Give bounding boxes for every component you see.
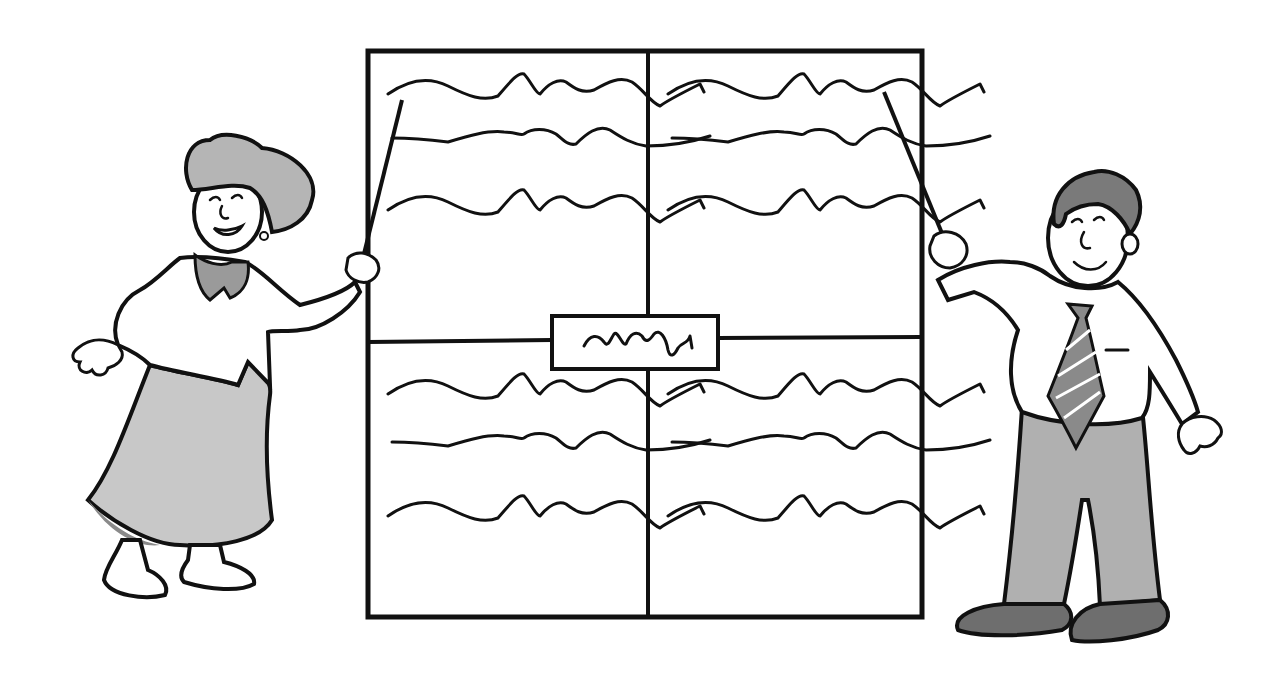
presenter-man (884, 92, 1221, 642)
man-shoe-right (1071, 600, 1168, 642)
woman-hand-right (346, 253, 379, 282)
illustration-canvas (0, 0, 1286, 684)
man-shoe-left (957, 604, 1071, 635)
presenter-woman (73, 100, 402, 597)
woman-earring (260, 232, 268, 240)
woman-skirt (88, 362, 272, 546)
man-ear (1122, 234, 1138, 254)
woman-shoe-right (181, 545, 254, 589)
man-hand-open (1178, 417, 1221, 454)
man-hand-pointer (930, 232, 967, 268)
board-horizontal-divider-left (368, 340, 552, 342)
center-label-box (552, 316, 718, 369)
woman-hand-left (73, 340, 122, 375)
board-horizontal-divider-right (718, 337, 922, 338)
woman-shoe-left (104, 540, 166, 597)
presentation-board (368, 51, 990, 617)
